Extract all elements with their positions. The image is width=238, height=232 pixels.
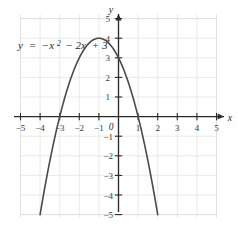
x-tick-label: −2 [75, 123, 85, 133]
y-tick-label: 5 [106, 14, 111, 24]
x-tick-label: 4 [195, 123, 200, 133]
equation-exponent: 2 [57, 39, 61, 48]
origin-label: 0 [109, 122, 114, 132]
x-axis-label: x [227, 112, 233, 123]
equation-term3: + 3 [92, 39, 108, 51]
x-tick-label: 3 [175, 123, 180, 133]
x-tick-label: 2 [155, 123, 160, 133]
x-tick-label: −4 [35, 123, 45, 133]
equation-term2: − 2x [65, 39, 86, 51]
y-tick-label: 1 [106, 92, 111, 102]
coordinate-plane: −5 −4 −3 −2 −1 1 2 3 4 5 0 5 4 3 2 1 −1 … [0, 0, 238, 232]
y-tick-label: −4 [103, 191, 113, 201]
equation-equals: = [29, 39, 36, 51]
y-tick-label: 2 [106, 73, 111, 83]
y-tick-label: −2 [103, 151, 113, 161]
x-tick-label: −5 [16, 123, 26, 133]
y-tick-label: −3 [103, 171, 113, 181]
y-tick-label: −5 [103, 210, 113, 220]
equation-lhs: y [17, 39, 23, 51]
x-tick-label: −1 [94, 123, 104, 133]
y-tick-label: −1 [103, 132, 113, 142]
y-tick-label: 3 [106, 53, 111, 63]
x-tick-label: 5 [214, 123, 219, 133]
equation-term1: −x [42, 39, 54, 51]
y-axis-label: y [108, 4, 114, 15]
graph-figure: −5 −4 −3 −2 −1 1 2 3 4 5 0 5 4 3 2 1 −1 … [0, 0, 238, 232]
